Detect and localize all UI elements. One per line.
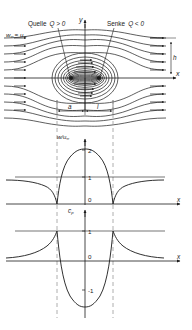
middle-panel-velocity: x w/u∞ 2 1 0 (6, 134, 181, 205)
dim-l-label: l (97, 103, 99, 110)
cp-curve-left-outer (6, 231, 57, 258)
outflow-arrows (150, 38, 164, 110)
bottom-tick-label-neg1: -1 (88, 287, 94, 294)
bottom-panel-pressure: x cp 1 0 -1 (6, 207, 181, 318)
bottom-tick-label-0: 0 (88, 253, 92, 260)
middle-tick-label-1: 1 (88, 174, 92, 181)
h-dimension-label: h (173, 54, 177, 61)
figure-source-sink-flow: y x (0, 0, 192, 330)
sink-label: SenkeQ < 0 (107, 20, 144, 28)
velocity-curve-right-outer (113, 180, 164, 204)
y-axis-label-top: y (78, 16, 83, 24)
middle-y-axis-label: w/u∞ (57, 134, 69, 141)
middle-x-axis-label: x (176, 196, 181, 203)
bottom-x-axis-label: x (176, 253, 181, 260)
top-panel-flow-field: y x (4, 16, 180, 126)
dim-a-label: a (68, 103, 72, 110)
bottom-tick-label-1: 1 (88, 228, 92, 235)
cp-curve-right-outer (113, 231, 164, 258)
source-label: QuelleQ > 0 (28, 20, 66, 28)
x-axis-label-top: x (175, 70, 180, 77)
middle-tick-label-0: 0 (88, 196, 92, 203)
bottom-y-axis-label: cp (68, 207, 74, 215)
velocity-curve-left-outer (6, 180, 57, 204)
inflow-arrows-upper (14, 38, 26, 110)
internal-flux-arrows (72, 60, 99, 96)
